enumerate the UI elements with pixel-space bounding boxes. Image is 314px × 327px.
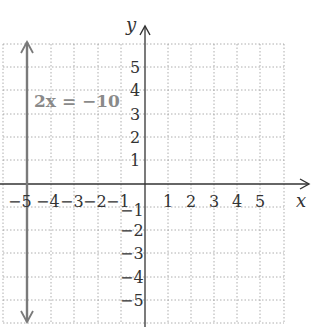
equation-label: 2x = −10 (34, 91, 120, 111)
x-axis-label: x (296, 190, 306, 211)
svg-text:−5: −5 (8, 192, 32, 211)
svg-text:3: 3 (209, 192, 219, 211)
svg-text:−3: −3 (120, 244, 144, 263)
y-axis-label: y (125, 14, 137, 35)
svg-text:3: 3 (130, 105, 140, 124)
svg-text:4: 4 (232, 192, 242, 211)
svg-text:−3: −3 (60, 192, 84, 211)
svg-text:5: 5 (255, 192, 265, 211)
svg-text:1: 1 (130, 151, 140, 170)
svg-text:4: 4 (130, 81, 140, 100)
svg-text:−5: −5 (120, 291, 144, 310)
svg-text:−4: −4 (36, 192, 60, 211)
svg-text:−1: −1 (120, 201, 144, 220)
svg-text:1: 1 (163, 192, 173, 211)
svg-text:5: 5 (130, 58, 140, 77)
svg-text:−2: −2 (83, 192, 107, 211)
svg-text:−2: −2 (120, 221, 144, 240)
svg-text:2: 2 (130, 128, 140, 147)
coordinate-plane: y x 2x = −10 −5 −4 −3 −2 −1 1 2 3 4 5 5 … (0, 0, 314, 327)
svg-text:−4: −4 (120, 268, 144, 287)
svg-text:2: 2 (186, 192, 196, 211)
